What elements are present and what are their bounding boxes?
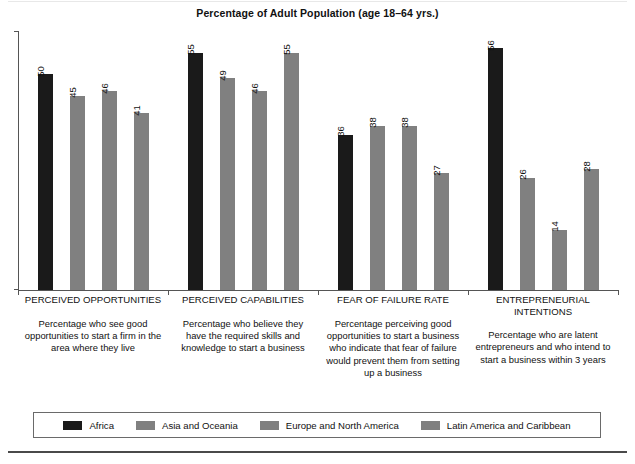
bar-value-label: 55 — [282, 44, 292, 55]
legend-label: Latin America and Caribbean — [447, 420, 571, 431]
bar-value-label: 41 — [132, 105, 142, 116]
category-label: PERCEIVED OPPORTUNITIES — [24, 294, 162, 306]
bar-slot: 41 — [125, 31, 157, 290]
caption-column: FEAR OF FAILURE RATEPercentage perceivin… — [318, 294, 468, 380]
category-description: Percentage perceiving good opportunities… — [324, 318, 462, 380]
bar-value-label: 45 — [68, 87, 78, 98]
bar[interactable]: 36 — [338, 135, 353, 290]
bar[interactable]: 46 — [252, 91, 267, 290]
legend-item[interactable]: Africa — [63, 420, 114, 431]
bar-slot: 26 — [511, 31, 543, 290]
bar[interactable]: 14 — [552, 230, 567, 290]
bar[interactable]: 56 — [488, 48, 503, 290]
legend-swatch — [260, 421, 279, 430]
bar-value-label: 49 — [218, 70, 228, 81]
bar-slot: 50 — [29, 31, 61, 290]
bar-value-label: 50 — [36, 66, 46, 77]
legend-item[interactable]: Asia and Oceania — [136, 420, 238, 431]
legend-swatch — [63, 421, 82, 430]
bar-value-label: 56 — [486, 40, 496, 51]
bar-group: 55494655 — [168, 31, 318, 290]
chart-legend: AfricaAsia and OceaniaEurope and North A… — [33, 412, 601, 438]
legend-item[interactable]: Latin America and Caribbean — [421, 420, 571, 431]
bar-slot: 38 — [393, 31, 425, 290]
bar-slot: 14 — [543, 31, 575, 290]
bar-slot: 56 — [479, 31, 511, 290]
legend-label: Europe and North America — [286, 420, 399, 431]
x-axis-tick — [618, 290, 619, 295]
caption-column: PERCEIVED CAPABILITIESPercentage who bel… — [168, 294, 318, 380]
bar[interactable]: 55 — [188, 53, 203, 290]
legend-items: AfricaAsia and OceaniaEurope and North A… — [63, 420, 570, 431]
bar-value-label: 14 — [550, 221, 560, 232]
bar-value-label: 27 — [432, 165, 442, 176]
bar-slot: 45 — [61, 31, 93, 290]
caption-column: ENTREPRENEURIAL INTENTIONSPercentage who… — [468, 294, 618, 380]
bar-slot: 36 — [329, 31, 361, 290]
category-description: Percentage who see good opportunities to… — [24, 318, 162, 355]
legend-label: Africa — [89, 420, 114, 431]
bar-value-label: 46 — [100, 83, 110, 94]
bar-value-label: 46 — [250, 83, 260, 94]
bar-value-label: 26 — [518, 169, 528, 180]
caption-column: PERCEIVED OPPORTUNITIESPercentage who se… — [18, 294, 168, 380]
legend-swatch — [136, 421, 155, 430]
legend-item[interactable]: Europe and North America — [260, 420, 399, 431]
bar-value-label: 38 — [400, 118, 410, 129]
bar[interactable]: 49 — [220, 78, 235, 290]
bar[interactable]: 46 — [102, 91, 117, 290]
top-divider — [8, 1, 627, 2]
bar-slot: 38 — [361, 31, 393, 290]
bar-slot: 27 — [425, 31, 457, 290]
bar-slot: 46 — [243, 31, 275, 290]
category-description: Percentage who are latent entrepreneurs … — [474, 329, 612, 366]
bar[interactable]: 45 — [70, 96, 85, 290]
category-label: PERCEIVED CAPABILITIES — [174, 294, 312, 306]
bar-group: 36383827 — [318, 31, 468, 290]
category-label: ENTREPRENEURIAL INTENTIONS — [474, 294, 612, 317]
bar[interactable]: 50 — [38, 74, 53, 290]
bar[interactable]: 26 — [520, 178, 535, 290]
bar[interactable]: 41 — [134, 113, 149, 290]
category-captions: PERCEIVED OPPORTUNITIESPercentage who se… — [18, 294, 618, 380]
bar-value-label: 36 — [336, 126, 346, 137]
bar-slot: 46 — [93, 31, 125, 290]
bar-group: 50454641 — [18, 31, 168, 290]
bar-value-label: 28 — [582, 161, 592, 172]
legend-swatch — [421, 421, 440, 430]
bar-groups: 50454641554946553638382756261428 — [18, 31, 618, 290]
legend-label: Asia and Oceania — [162, 420, 238, 431]
bar-slot: 28 — [575, 31, 607, 290]
bar-slot: 55 — [179, 31, 211, 290]
category-label: FEAR OF FAILURE RATE — [324, 294, 462, 306]
bar[interactable]: 38 — [402, 126, 417, 290]
plot-area: 50454641554946553638382756261428 — [18, 31, 618, 290]
category-description: Percentage who believe they have the req… — [174, 318, 312, 355]
bar-value-label: 38 — [368, 118, 378, 129]
bar[interactable]: 38 — [370, 126, 385, 290]
bar[interactable]: 27 — [434, 173, 449, 290]
bar-value-label: 55 — [186, 44, 196, 55]
bottom-divider — [8, 451, 627, 453]
bar-group: 56261428 — [468, 31, 618, 290]
bar[interactable]: 28 — [584, 169, 599, 290]
bar-slot: 49 — [211, 31, 243, 290]
chart-title: Percentage of Adult Population (age 18–6… — [0, 7, 635, 19]
bar[interactable]: 55 — [284, 53, 299, 290]
bar-slot: 55 — [275, 31, 307, 290]
